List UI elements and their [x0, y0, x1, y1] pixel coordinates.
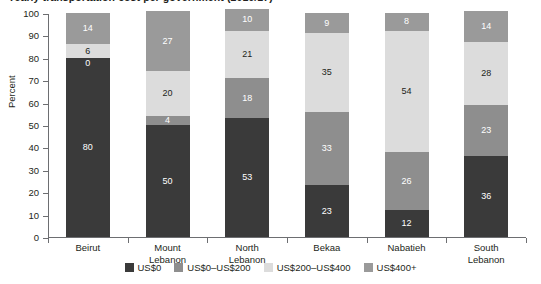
x-category-label: Beirut — [45, 242, 131, 254]
y-axis-line — [48, 14, 49, 238]
bar-stack[interactable]: 1226548 — [385, 13, 429, 237]
y-tick-label: 70 — [28, 74, 39, 87]
bar-segment[interactable]: 10 — [225, 9, 269, 31]
chart-title: Yearly transportation cost per governmen… — [8, 0, 273, 3]
bar-segment-value: 20 — [162, 89, 172, 98]
legend-item[interactable]: US$400+ — [364, 262, 417, 273]
bar-segment[interactable]: 6 — [66, 44, 110, 57]
bar-segment-value: 0 — [85, 59, 90, 68]
bar-stack[interactable]: 5042027 — [146, 11, 190, 237]
bar-segment[interactable]: 21 — [225, 31, 269, 78]
y-tick-label: 90 — [28, 29, 39, 42]
bar-segment[interactable]: 12 — [385, 210, 429, 237]
bar-segment-value: 18 — [242, 94, 252, 103]
bar-segment-value: 53 — [242, 173, 252, 182]
bar-segment-value: 9 — [324, 19, 329, 28]
bar-segment[interactable]: 8 — [385, 13, 429, 31]
bar-segment-value: 23 — [481, 126, 491, 135]
y-tick: 10 — [43, 216, 48, 217]
bar-segment-value: 54 — [401, 87, 411, 96]
x-category-label: Bekaa — [284, 242, 370, 254]
bar-stack[interactable]: 2333359 — [305, 13, 349, 237]
bar-segment-value: 80 — [83, 143, 93, 152]
y-tick: 100 — [43, 14, 48, 15]
bar-segment-value: 21 — [242, 50, 252, 59]
bar-segment[interactable]: 35 — [305, 33, 349, 111]
y-tick-label: 60 — [28, 97, 39, 110]
bar-segment[interactable]: 36 — [464, 156, 508, 237]
bar-stack[interactable]: 800614 — [66, 13, 110, 237]
legend-item[interactable]: US$0–US$200 — [174, 262, 250, 273]
y-tick: 70 — [43, 81, 48, 82]
x-category-label-line: Bekaa — [284, 242, 370, 254]
x-category-label-line: Nabatieh — [364, 242, 450, 254]
legend-item[interactable]: US$200–US$400 — [264, 262, 351, 273]
bar-segment[interactable]: 33 — [305, 112, 349, 186]
bar-segment-value: 14 — [481, 22, 491, 31]
bar-segment[interactable]: 20 — [146, 71, 190, 116]
legend-swatch — [174, 263, 183, 272]
y-tick: 60 — [43, 104, 48, 105]
y-tick-label: 50 — [28, 119, 39, 132]
y-tick: 90 — [43, 36, 48, 37]
x-category-label-line: North — [204, 242, 290, 254]
bar-segment-value: 33 — [322, 144, 332, 153]
bar-stack[interactable]: 36232814 — [464, 11, 508, 237]
bar-segment-value: 26 — [401, 177, 411, 186]
legend-item[interactable]: US$0 — [125, 262, 162, 273]
bar-segment[interactable]: 53 — [225, 118, 269, 237]
bar-segment[interactable]: 26 — [385, 152, 429, 210]
bar-segment[interactable]: 54 — [385, 31, 429, 152]
bar-segment-value: 35 — [322, 68, 332, 77]
y-tick: 50 — [43, 126, 48, 127]
y-tick: 30 — [43, 171, 48, 172]
legend-label: US$200–US$400 — [277, 262, 351, 273]
bar-segment-value: 6 — [85, 47, 90, 56]
x-category-label-line: South — [443, 242, 529, 254]
bar-segment[interactable]: 27 — [146, 11, 190, 71]
y-tick-label: 0 — [34, 231, 39, 244]
bar-segment[interactable]: 23 — [305, 185, 349, 237]
bar-segment[interactable]: 4 — [146, 116, 190, 125]
legend-swatch — [125, 263, 134, 272]
bar-segment[interactable]: 14 — [464, 11, 508, 42]
bar-segment[interactable]: 28 — [464, 42, 508, 105]
bar-segment[interactable]: 9 — [305, 13, 349, 33]
legend-swatch — [264, 263, 273, 272]
bar-segment-value: 27 — [162, 37, 172, 46]
y-tick-label: 30 — [28, 164, 39, 177]
y-tick: 20 — [43, 193, 48, 194]
y-tick-label: 40 — [28, 141, 39, 154]
plot-area: 0102030405060708090100 80061450420275318… — [48, 14, 526, 238]
y-axis-title: Percent — [6, 75, 17, 108]
bar-segment[interactable]: 23 — [464, 105, 508, 157]
legend-label: US$0–US$200 — [187, 262, 250, 273]
bar-segment[interactable]: 50 — [146, 125, 190, 237]
y-tick-label: 100 — [23, 7, 39, 20]
y-tick-label: 10 — [28, 209, 39, 222]
bar-segment-value: 4 — [165, 116, 170, 125]
bar-segment[interactable]: 80 — [66, 58, 110, 237]
x-category-label-line: Mount — [125, 242, 211, 254]
legend-label: US$400+ — [377, 262, 417, 273]
legend-label: US$0 — [138, 262, 162, 273]
chart-legend: US$0US$0–US$200US$200–US$400US$400+ — [0, 262, 541, 273]
bar-segment-value: 10 — [242, 15, 252, 24]
legend-swatch — [364, 263, 373, 272]
bar-segment[interactable]: 14 — [66, 13, 110, 44]
bar-segment-value: 12 — [401, 219, 411, 228]
bar-segment-value: 8 — [404, 17, 409, 26]
y-tick-label: 20 — [28, 186, 39, 199]
y-tick-label: 80 — [28, 52, 39, 65]
bar-segment[interactable]: 18 — [225, 78, 269, 118]
bar-stack[interactable]: 53182110 — [225, 9, 269, 237]
bar-segment-value: 28 — [481, 69, 491, 78]
bar-segment-value: 50 — [162, 177, 172, 186]
bar-segment-value: 14 — [83, 24, 93, 33]
stacked-bar-chart: Yearly transportation cost per governmen… — [0, 0, 541, 284]
bar-segment-value: 23 — [322, 207, 332, 216]
x-category-label: Nabatieh — [364, 242, 450, 254]
y-tick: 80 — [43, 59, 48, 60]
bar-segment-value: 36 — [481, 192, 491, 201]
x-category-label-line: Beirut — [45, 242, 131, 254]
